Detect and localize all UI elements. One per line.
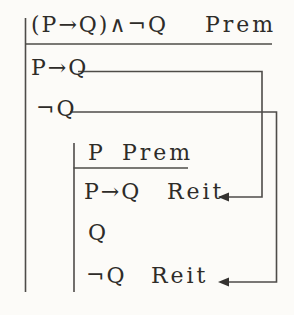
outer-negation-formula: ¬Q xyxy=(36,98,76,120)
subproof-negation-formula: ¬Q xyxy=(86,265,126,287)
outer-conditional-formula: P→Q xyxy=(31,57,88,79)
subproof-conditional-formula: P→Q xyxy=(84,181,141,203)
outer-premise-formula: (P→Q)∧¬Q xyxy=(31,14,168,36)
subproof-negation-justification: Reit xyxy=(151,265,208,287)
reit-arrowhead-negation-icon xyxy=(218,278,229,287)
subproof-premise-formula: P xyxy=(88,142,105,164)
subproof-premise-justification: Prem xyxy=(122,142,193,164)
subproof-conditional-justification: Reit xyxy=(167,181,224,203)
subproof-q-formula: Q xyxy=(88,222,108,244)
outer-premise-justification: Prem xyxy=(205,14,276,36)
fitch-proof-diagram: (P→Q)∧¬Q Prem P→Q ¬Q P Prem P→Q Reit Q ¬… xyxy=(0,0,294,315)
